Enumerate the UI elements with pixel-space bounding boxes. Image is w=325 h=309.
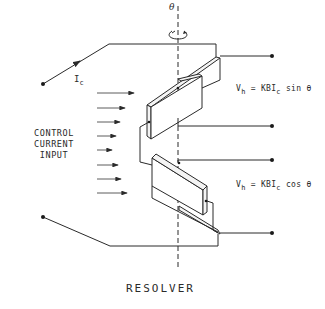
- hall-plate-sin: [140, 57, 272, 165]
- terminal-cos-bottom: [270, 231, 274, 235]
- output-equation-cos: Vh = KBIc cos θ: [236, 180, 312, 192]
- eq-mid: = KBI: [246, 84, 277, 93]
- label-line: CONTROL: [26, 128, 82, 139]
- terminal-sin-top: [270, 54, 274, 58]
- output-equation-sin: Vh = KBIc sin θ: [236, 84, 312, 96]
- terminal-control-top: [41, 82, 45, 86]
- diagram-title: RESOLVER: [126, 282, 195, 295]
- label-line: CURRENT: [26, 139, 82, 150]
- eq-rhs: sin θ: [281, 84, 312, 93]
- theta-label: θ: [169, 2, 174, 12]
- control-wire-bottom: [43, 217, 218, 246]
- control-current-input-label: CONTROL CURRENT INPUT: [26, 128, 82, 161]
- eq-mid: = KBI: [246, 180, 277, 189]
- field-arrows: [97, 93, 134, 193]
- terminal-sin-bottom: [270, 124, 274, 128]
- terminal-control-bottom: [41, 215, 45, 219]
- terminal-cos-top: [270, 158, 274, 162]
- control-current-label: Ic: [74, 74, 84, 87]
- hall-plate-cos: [152, 154, 272, 234]
- eq-rhs: cos θ: [281, 180, 312, 189]
- ic-subscript: c: [79, 79, 83, 87]
- label-line: INPUT: [26, 150, 82, 161]
